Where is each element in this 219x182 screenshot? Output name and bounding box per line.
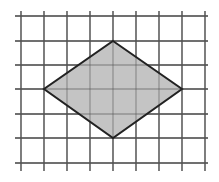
diagram-canvas [0, 0, 219, 182]
